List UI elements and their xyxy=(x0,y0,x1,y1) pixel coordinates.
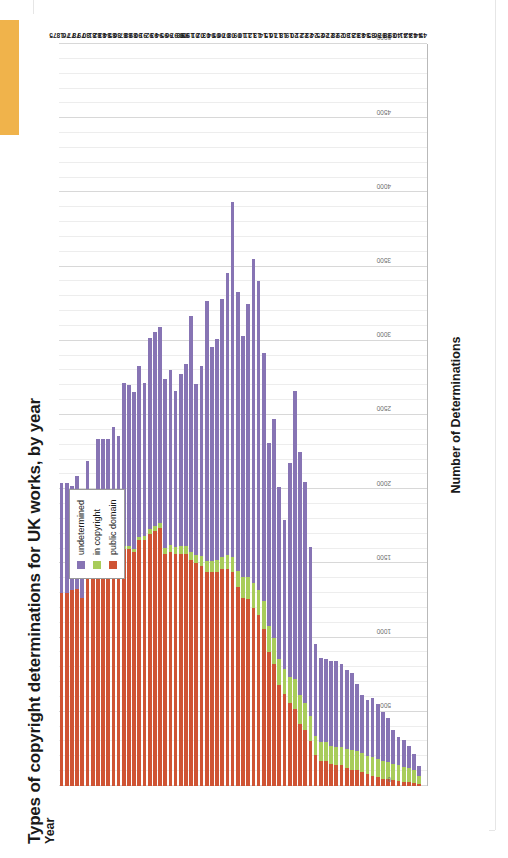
bar-segment-ic xyxy=(293,679,297,709)
bar-segment-pd xyxy=(407,782,411,786)
value-axis-tick-label: 1500 xyxy=(377,554,391,561)
value-axis-tick-label: 500 xyxy=(380,702,391,709)
bar-segment-pd xyxy=(397,781,401,786)
bar-segment-pd xyxy=(205,572,209,786)
bar-row xyxy=(417,44,421,786)
bar-segment-un xyxy=(298,452,302,695)
bar-row xyxy=(366,44,370,786)
bar-segment-ic xyxy=(309,716,313,741)
bar-segment-un xyxy=(309,547,313,716)
bar-segment-pd xyxy=(298,724,302,786)
bar-segment-ic xyxy=(246,577,250,599)
bar-segment-un xyxy=(184,364,188,547)
bar-row xyxy=(86,44,90,786)
bar-row xyxy=(117,44,121,786)
bar-segment-ic xyxy=(298,696,302,724)
bar-row xyxy=(236,44,240,786)
bar-segment-pd xyxy=(417,784,421,786)
bar-segment-un xyxy=(143,383,147,536)
bar-segment-pd xyxy=(194,563,198,786)
bar-segment-un xyxy=(303,482,307,703)
bar-segment-pd xyxy=(75,589,79,786)
bar-row xyxy=(91,44,95,786)
bar-row xyxy=(402,44,406,786)
bar-segment-un xyxy=(262,353,266,601)
bar-segment-ic xyxy=(381,761,385,779)
bar-row xyxy=(340,44,344,786)
bar-segment-ic xyxy=(231,557,235,573)
bar-segment-un xyxy=(132,392,136,549)
bar-segment-un xyxy=(381,712,385,761)
bar-segment-pd xyxy=(200,566,204,786)
bar-segment-ic xyxy=(179,546,183,554)
bar-segment-ic xyxy=(137,537,141,540)
bar-segment-un xyxy=(283,520,287,668)
rotated-chart-wrapper: Types of copyright determinations for UK… xyxy=(19,14,489,844)
bar-segment-un xyxy=(366,700,370,756)
bar-segment-pd xyxy=(60,593,64,786)
bar-segment-un xyxy=(137,366,141,537)
bar-segment-pd xyxy=(86,574,90,786)
bar-segment-pd xyxy=(355,770,359,786)
bar-row xyxy=(293,44,297,786)
bar-segment-ic xyxy=(272,638,276,665)
bar-segment-ic xyxy=(402,767,406,782)
bar-segment-un xyxy=(293,391,297,679)
bar-row xyxy=(314,44,318,786)
bar-segment-pd xyxy=(163,555,167,787)
bar-row xyxy=(75,44,79,786)
legend-item-undetermined: undetermined xyxy=(76,499,86,569)
bar-segment-pd xyxy=(252,608,256,786)
bar-segment-pd xyxy=(262,629,266,786)
bar-segment-ic xyxy=(236,571,240,587)
bar-segment-un xyxy=(246,304,250,577)
bar-series-container xyxy=(59,44,427,786)
bar-segment-ic xyxy=(262,601,266,628)
bar-row xyxy=(184,44,188,786)
bar-segment-pd xyxy=(246,599,250,786)
bar-segment-un xyxy=(355,684,359,751)
bar-segment-pd xyxy=(148,534,152,786)
bar-segment-ic xyxy=(257,590,261,615)
bar-segment-pd xyxy=(412,783,416,786)
bar-row xyxy=(355,44,359,786)
bar-row xyxy=(283,44,287,786)
legend-swatch-undetermined xyxy=(77,561,85,569)
category-label: 45 xyxy=(420,32,427,39)
bar-segment-un xyxy=(257,281,261,590)
chart-title: Types of copyright determinations for UK… xyxy=(25,144,45,844)
bar-row xyxy=(60,44,64,786)
bar-segment-pd xyxy=(184,555,188,787)
bar-row xyxy=(189,44,193,786)
bar-segment-un xyxy=(252,259,256,583)
bar-row xyxy=(143,44,147,786)
bar-segment-pd xyxy=(303,730,307,786)
bar-segment-pd xyxy=(272,664,276,786)
bar-row xyxy=(298,44,302,786)
legend-label-in-copyright: in copyright xyxy=(92,509,102,555)
bar-segment-un xyxy=(345,670,349,749)
bar-segment-un xyxy=(194,384,198,555)
bar-segment-pd xyxy=(65,593,69,786)
value-axis-tick-label: 0 xyxy=(387,777,391,784)
bar-row xyxy=(127,44,131,786)
bar-segment-ic xyxy=(340,747,344,766)
bar-segment-pd xyxy=(288,703,292,786)
bar-row xyxy=(371,44,375,786)
bar-segment-un xyxy=(391,730,395,764)
bar-segment-pd xyxy=(319,761,323,786)
bar-segment-ic xyxy=(391,764,395,780)
bar-segment-un xyxy=(334,661,338,747)
bar-segment-un xyxy=(272,419,276,637)
bar-row xyxy=(262,44,266,786)
bar-segment-un xyxy=(402,740,406,767)
bar-segment-un xyxy=(220,299,224,557)
bar-row xyxy=(423,44,427,786)
bar-row xyxy=(205,44,209,786)
bar-segment-ic xyxy=(366,756,370,774)
bar-segment-pd xyxy=(231,572,235,786)
bar-segment-un xyxy=(153,332,157,526)
bar-segment-un xyxy=(163,379,167,548)
bar-row xyxy=(163,44,167,786)
bar-row xyxy=(153,44,157,786)
